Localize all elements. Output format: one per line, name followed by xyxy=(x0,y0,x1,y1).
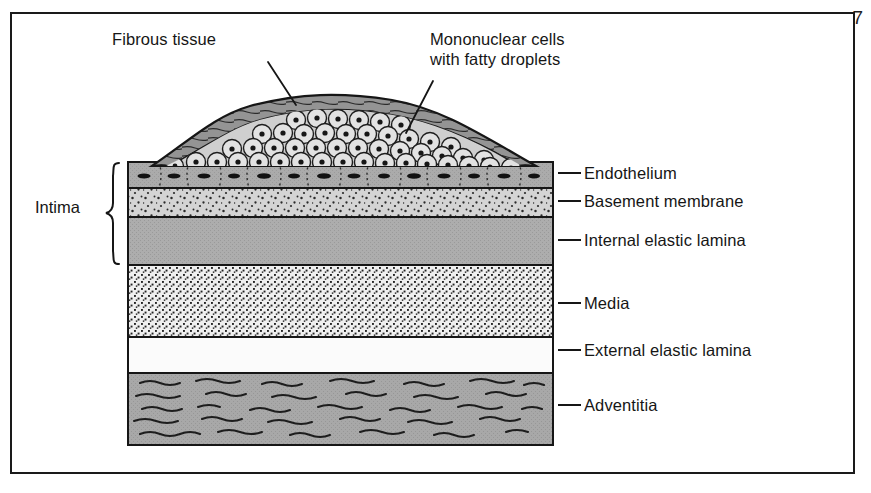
layer-media xyxy=(128,265,553,337)
layer-external-elastic-lamina xyxy=(128,337,553,373)
label-intima: Intima xyxy=(35,198,80,217)
label-endothelium: Endothelium xyxy=(584,164,677,183)
side-leader-lines xyxy=(558,173,581,405)
label-external-elastic-lamina: External elastic lamina xyxy=(584,341,751,360)
diagram-page: 7 xyxy=(0,0,871,493)
atherosclerotic-plaque xyxy=(152,95,536,178)
layer-adventitia xyxy=(128,373,553,445)
artery-cross-section-diagram: Fibrous tissue Mononuclear cells with fa… xyxy=(0,0,871,493)
label-basement-membrane: Basement membrane xyxy=(584,192,743,211)
intima-bracket xyxy=(106,163,119,264)
label-internal-elastic-lamina: Internal elastic lamina xyxy=(584,231,746,250)
callout-fibrous-tissue: Fibrous tissue xyxy=(112,30,216,50)
layer-internal-elastic-lamina xyxy=(128,217,553,265)
label-adventitia: Adventitia xyxy=(584,396,657,415)
callout-mononuclear-cells-line-2: with fatty droplets xyxy=(430,50,565,70)
callout-mononuclear-cells: Mononuclear cells with fatty droplets xyxy=(430,30,565,70)
label-media: Media xyxy=(584,294,629,313)
wall-layers xyxy=(128,162,553,445)
layer-basement-membrane xyxy=(128,188,553,217)
callout-mononuclear-cells-line-1: Mononuclear cells xyxy=(430,30,565,50)
callout-fibrous-tissue-line-1: Fibrous tissue xyxy=(112,30,216,50)
